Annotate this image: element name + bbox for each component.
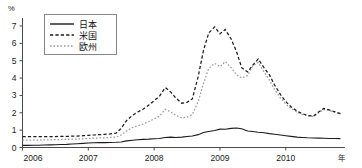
series-line-europe [23,62,341,141]
y-tick-label: 2 [12,108,17,118]
x-tick-label: 2008 [145,153,164,163]
legend-label-europe: 欧州 [79,41,97,52]
line-chart: % 01234567 20062007200820092010 年 日本 米国 … [0,0,362,168]
x-tick-label: 2007 [79,153,98,163]
legend-label-japan: 日本 [79,19,97,30]
x-tick-label: 2010 [276,153,295,163]
y-tick-label: 6 [12,38,17,48]
x-axis-unit-label: 年 [338,153,346,163]
x-tick-label: 2006 [24,153,43,163]
y-tick-label: 4 [12,73,17,83]
y-tick-label: 0 [12,143,17,153]
y-axis-unit-label: % [8,4,15,13]
chart-svg: % 01234567 20062007200820092010 年 日本 米国 … [0,0,362,168]
x-axis-ticks: 20062007200820092010 [23,148,296,163]
y-axis-ticks: 01234567 [12,21,23,153]
y-tick-label: 7 [12,21,17,31]
x-tick-label: 2009 [210,153,229,163]
y-tick-label: 1 [12,125,17,135]
chart-legend: 日本 米国 欧州 [45,15,117,55]
y-tick-label: 5 [12,56,17,66]
series-line-japan [23,128,341,145]
y-tick-label: 3 [12,90,17,100]
legend-label-usa: 米国 [79,30,97,41]
